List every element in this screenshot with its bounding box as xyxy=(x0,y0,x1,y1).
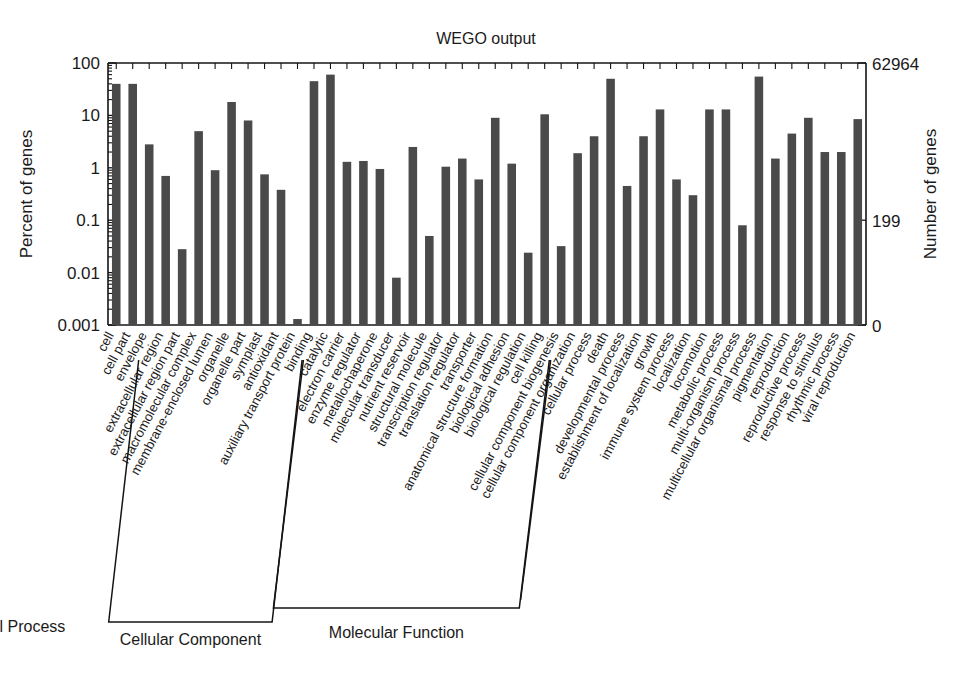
left-tick-label: 1 xyxy=(91,159,100,178)
bar xyxy=(672,179,681,325)
bar xyxy=(557,246,566,325)
bar xyxy=(161,176,170,325)
left-tick-label: 0.01 xyxy=(67,264,100,283)
bar xyxy=(639,136,648,325)
bar xyxy=(656,109,665,325)
bar xyxy=(590,136,599,325)
top-axis-ticks xyxy=(116,63,858,69)
bar xyxy=(409,147,418,325)
left-axis-title: Percent of genes xyxy=(17,130,36,259)
bar xyxy=(788,134,797,325)
bar xyxy=(244,120,253,325)
group-label: Biological Process xyxy=(0,618,65,635)
right-tick-label: 62964 xyxy=(872,55,919,74)
bar xyxy=(260,174,269,325)
bar xyxy=(277,190,286,325)
bar xyxy=(326,75,335,325)
bar xyxy=(573,153,582,325)
right-axis-ticks: 629641990 xyxy=(858,55,919,336)
bar xyxy=(293,319,302,325)
bar xyxy=(837,152,846,325)
group-label: Molecular Function xyxy=(329,624,464,641)
bar xyxy=(722,109,731,325)
bar xyxy=(524,253,533,325)
wego-chart-figure: WEGO output 1001010.10.010.001 629641990… xyxy=(0,0,972,677)
chart-canvas: WEGO output 1001010.10.010.001 629641990… xyxy=(0,0,972,677)
bar xyxy=(606,79,615,325)
bar xyxy=(689,195,698,325)
bar xyxy=(804,118,813,325)
bar xyxy=(112,84,121,325)
bar xyxy=(376,169,385,325)
bar xyxy=(507,164,516,325)
left-tick-label: 100 xyxy=(72,54,100,73)
bar xyxy=(227,102,236,325)
bar xyxy=(310,81,319,325)
bar xyxy=(178,249,187,325)
bar xyxy=(705,109,714,325)
left-tick-label: 0.1 xyxy=(76,211,100,230)
left-tick-label: 10 xyxy=(81,106,100,125)
bar xyxy=(491,118,500,325)
bar xyxy=(755,77,764,325)
bar xyxy=(623,186,632,325)
bar xyxy=(343,162,352,325)
bar xyxy=(359,161,368,325)
bar xyxy=(194,131,203,325)
plot-frame xyxy=(108,63,866,325)
category-labels-group: cellcell partenvelopeextracellular regio… xyxy=(94,329,858,502)
bar xyxy=(853,119,862,325)
bar xyxy=(540,114,549,325)
bar xyxy=(738,225,747,325)
bar xyxy=(442,167,451,325)
bar xyxy=(211,170,220,325)
bars-group xyxy=(112,75,862,325)
right-axis-title: Number of genes xyxy=(921,129,940,259)
left-tick-label: 0.001 xyxy=(57,316,100,335)
chart-title: WEGO output xyxy=(436,30,536,47)
bar xyxy=(771,159,780,325)
bar xyxy=(128,84,137,325)
bar xyxy=(458,159,467,325)
right-tick-label: 199 xyxy=(872,212,900,231)
bar xyxy=(474,179,483,325)
bar xyxy=(145,144,154,325)
right-tick-label: 0 xyxy=(872,317,881,336)
group-label: Cellular Component xyxy=(120,631,262,648)
bar xyxy=(425,236,434,325)
bar xyxy=(821,152,830,325)
bar xyxy=(392,278,401,325)
